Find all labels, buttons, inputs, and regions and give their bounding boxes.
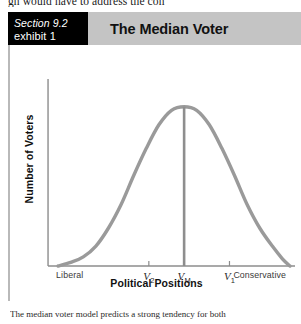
median-voter-chart — [10, 45, 301, 301]
section-label-box: Section 9.2 exhibit 1 — [8, 12, 88, 45]
exhibit-caption-clipped: The median voter model predicts a strong… — [10, 309, 295, 324]
exhibit-title: The Median Voter — [110, 21, 228, 37]
exhibit-header: Section 9.2 exhibit 1 The Median Voter — [8, 12, 301, 45]
section-number: Section 9.2 — [14, 17, 88, 30]
page-body-text-clipped: gh would have to address the con — [8, 0, 298, 7]
exhibit-title-bar: The Median Voter — [88, 12, 301, 45]
chart-panel: Number of Voters LiberalV2VMV1Conservati… — [8, 45, 301, 301]
x-axis-label: Political Positions — [10, 277, 301, 289]
exhibit-number: exhibit 1 — [14, 30, 88, 43]
voter-distribution-curve — [58, 107, 290, 266]
